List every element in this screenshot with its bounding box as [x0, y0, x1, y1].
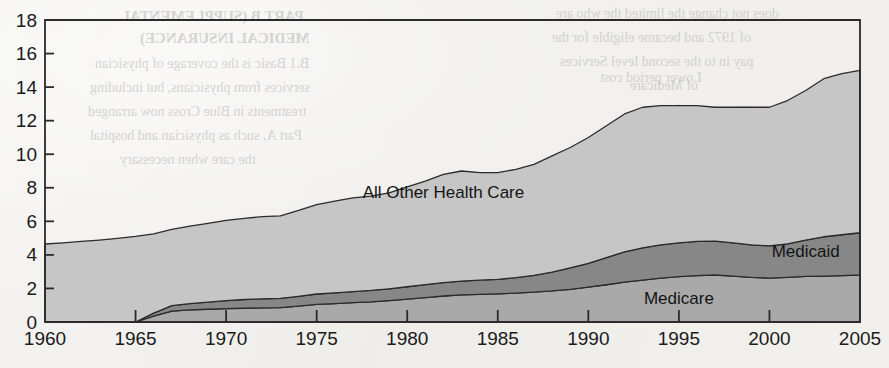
x-axis-tick-label: 1960	[24, 328, 66, 349]
series-label-all-other-health-care: All Other Health Care	[363, 183, 525, 202]
y-axis-tick-labels: 024681012141618	[16, 10, 38, 333]
series-label-medicare: Medicare	[644, 289, 714, 308]
x-axis-tick-label: 2005	[839, 328, 881, 349]
stacked-area-chart: 024681012141618 196019651970197519801985…	[0, 0, 889, 368]
x-axis-tick-label: 1970	[205, 328, 247, 349]
x-axis-tick-label: 1995	[658, 328, 700, 349]
x-axis-tick-labels: 1960196519701975198019851990199520002005	[24, 328, 881, 349]
x-axis-tick-label: 1990	[567, 328, 609, 349]
y-axis-tick-label: 18	[16, 10, 37, 31]
y-axis-tick-label: 10	[16, 144, 37, 165]
y-axis-tick-label: 12	[16, 110, 37, 131]
y-axis-tick-label: 16	[16, 43, 37, 64]
y-axis-tick-label: 2	[26, 278, 37, 299]
x-axis-tick-label: 1975	[296, 328, 338, 349]
x-axis-tick-label: 1985	[477, 328, 519, 349]
y-axis-tick-label: 8	[26, 177, 37, 198]
x-axis-tick-label: 2000	[748, 328, 790, 349]
y-axis-tick-label: 14	[16, 77, 38, 98]
x-axis-tick-label: 1980	[386, 328, 428, 349]
x-axis-tick-label: 1965	[114, 328, 156, 349]
y-axis-tick-label: 6	[26, 211, 37, 232]
y-axis-tick-label: 4	[26, 244, 37, 265]
series-label-medicaid: Medicaid	[772, 242, 840, 261]
